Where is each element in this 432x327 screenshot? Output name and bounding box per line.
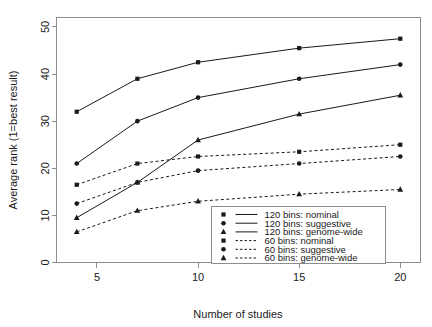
legend-label: 60 bins: genome-wide [265, 252, 358, 263]
x-tick-label: 20 [394, 271, 406, 283]
data-point [398, 37, 402, 41]
chart-legend: 120 bins: nominal120 bins: suggestive120… [212, 207, 386, 264]
x-tick-label: 15 [293, 271, 305, 283]
data-point [135, 161, 139, 165]
data-point [196, 95, 201, 100]
data-point [135, 119, 140, 124]
legend-marker-square [221, 212, 225, 216]
y-tick-label: 10 [39, 209, 51, 221]
chart-figure: 01020304050 5101520 Average rank (1=best… [0, 0, 432, 327]
legend-marker-circle [221, 221, 226, 226]
chart-svg: 01020304050 5101520 Average rank (1=best… [0, 0, 432, 327]
y-tick-label: 40 [39, 68, 51, 80]
data-point [297, 161, 302, 166]
y-tick-label: 20 [39, 162, 51, 174]
legend-marker-square [221, 239, 225, 243]
x-axis-title: Number of studies [193, 308, 283, 320]
chart-background [0, 0, 432, 327]
y-tick-label: 30 [39, 115, 51, 127]
y-tick-label: 50 [39, 21, 51, 33]
data-point [75, 110, 79, 114]
x-tick-label: 5 [94, 271, 100, 283]
y-tick-label: 0 [39, 259, 51, 265]
y-axis-title: Average rank (1=best result) [7, 71, 19, 210]
data-point [75, 183, 79, 187]
data-point [297, 76, 302, 81]
data-point [196, 168, 201, 173]
legend-marker-circle [221, 247, 226, 252]
x-tick-label: 10 [192, 271, 204, 283]
data-point [297, 150, 301, 154]
data-point [74, 201, 79, 206]
data-point [398, 62, 403, 67]
data-point [135, 77, 139, 81]
data-point [196, 60, 200, 64]
data-point [398, 154, 403, 159]
data-point [135, 180, 140, 185]
data-point [297, 46, 301, 50]
data-point [196, 154, 200, 158]
data-point [74, 161, 79, 166]
data-point [398, 143, 402, 147]
